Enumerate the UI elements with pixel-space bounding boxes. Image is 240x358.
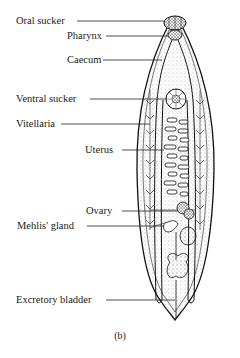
label-caecum: Caecum [67,54,101,66]
figure-caption: (b) [0,330,240,341]
label-oral-sucker: Oral sucker [16,15,65,27]
label-uterus: Uterus [85,144,113,156]
pharynx-shape [168,30,182,40]
label-vitellaria: Vitellaria [16,118,55,130]
label-pharynx: Pharynx [67,30,102,42]
ventral-sucker-shape [166,89,186,109]
label-mehlis-gland: Mehlis' gland [17,220,74,232]
label-ventral-sucker: Ventral sucker [16,93,76,105]
label-ovary: Ovary [86,205,112,217]
label-excretory-bladder: Excretory bladder [16,294,92,306]
oral-sucker-shape [164,16,186,30]
